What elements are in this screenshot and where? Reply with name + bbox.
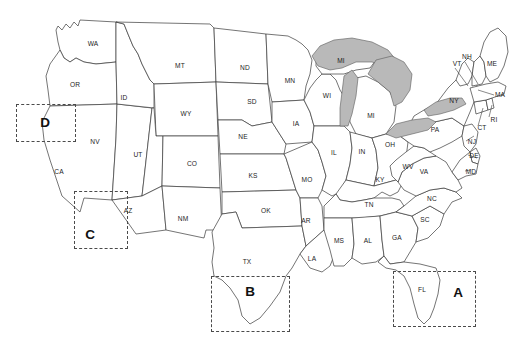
region-box-c[interactable] xyxy=(74,191,128,249)
us-map-figure: WA OR CA NV ID MT WY UT AZ CO NM ND SD N… xyxy=(0,0,520,352)
state-label: KY xyxy=(375,177,384,184)
state-label: NM xyxy=(178,216,189,223)
state-label: ME xyxy=(487,61,497,68)
state-label: NH xyxy=(462,54,472,61)
state-shape-ks xyxy=(220,154,296,192)
region-label-c: C xyxy=(85,228,95,242)
state-label: MN xyxy=(285,78,296,85)
region-label-d: D xyxy=(40,116,50,130)
state-shape-ct xyxy=(474,100,488,114)
state-label: NV xyxy=(90,139,99,146)
state-label: IN xyxy=(359,149,366,156)
state-label: SD xyxy=(247,99,256,106)
state-label: RI xyxy=(491,117,498,124)
state-label: AR xyxy=(301,218,310,225)
state-label: IL xyxy=(331,150,337,157)
state-label: DE xyxy=(469,153,478,160)
state-label: LA xyxy=(308,256,316,263)
state-label: MI xyxy=(367,113,375,120)
state-label: KS xyxy=(248,173,257,180)
state-label: IA xyxy=(293,121,300,128)
state-label: WV xyxy=(403,164,414,171)
region-label-b: B xyxy=(245,285,255,299)
state-label: MS xyxy=(334,238,344,245)
state-label: CA xyxy=(54,169,63,176)
state-label: VT xyxy=(453,61,462,68)
state-shape-mn xyxy=(266,34,312,102)
state-label: NY xyxy=(449,98,458,105)
state-label: MT xyxy=(175,63,185,70)
state-label: OK xyxy=(261,208,271,215)
state-label: PA xyxy=(431,127,440,134)
state-label: OH xyxy=(385,142,395,149)
state-label: GA xyxy=(392,235,402,242)
state-label: OR xyxy=(70,82,80,89)
state-label: SC xyxy=(420,217,429,224)
state-label: UT xyxy=(133,152,142,159)
state-label: AL xyxy=(364,238,372,245)
state-label: WA xyxy=(88,41,99,48)
state-label: MI xyxy=(337,58,345,65)
state-label: TX xyxy=(243,259,252,266)
state-label: ND xyxy=(240,65,250,72)
state-label: ID xyxy=(121,95,128,102)
state-label: MD xyxy=(466,169,477,176)
state-label: NE xyxy=(238,134,247,141)
state-label: VA xyxy=(420,169,429,176)
state-label: WY xyxy=(181,111,192,118)
state-label: CT xyxy=(477,125,486,132)
state-shape-sd xyxy=(216,82,272,126)
state-label: MO xyxy=(302,177,313,184)
state-label: CO xyxy=(187,161,197,168)
state-label: TN xyxy=(364,202,373,209)
state-label: NC xyxy=(427,196,437,203)
state-label: MA xyxy=(495,92,505,99)
region-label-a: A xyxy=(453,286,463,300)
region-box-a[interactable] xyxy=(393,271,476,327)
state-label: NJ xyxy=(468,139,476,146)
state-shape-wa xyxy=(56,20,116,64)
state-shape-nd xyxy=(214,28,268,84)
state-label: WI xyxy=(323,93,331,100)
